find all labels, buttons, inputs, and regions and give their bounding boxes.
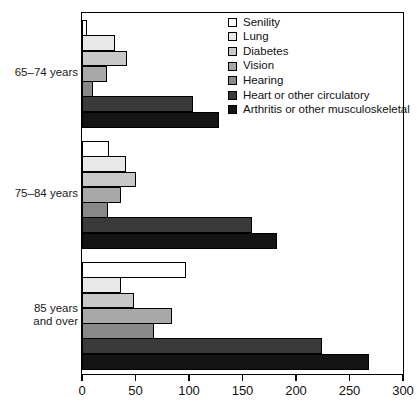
legend-swatch-icon bbox=[228, 91, 237, 100]
legend-label: Senility bbox=[243, 17, 280, 29]
x-axis-tick-label: 100 bbox=[178, 383, 200, 398]
x-axis: 050100150200250300 bbox=[81, 375, 405, 405]
legend-swatch-icon bbox=[228, 47, 237, 56]
x-axis-tick bbox=[349, 375, 351, 381]
bar bbox=[82, 323, 154, 339]
x-axis-tick-label: 150 bbox=[232, 383, 254, 398]
bar bbox=[82, 202, 108, 218]
bar bbox=[82, 187, 121, 203]
legend-label: Lung bbox=[243, 31, 269, 43]
legend-swatch-icon bbox=[228, 62, 237, 71]
legend-item: Diabetes bbox=[228, 44, 410, 59]
bar bbox=[82, 96, 193, 112]
legend-swatch-icon bbox=[228, 105, 237, 114]
chart-legend: SenilityLungDiabetesVisionHearingHeart o… bbox=[228, 15, 410, 117]
legend-label: Hearing bbox=[243, 75, 283, 87]
y-axis-label: 65–74 years bbox=[0, 66, 78, 79]
bar bbox=[82, 156, 126, 172]
bar bbox=[82, 66, 107, 82]
bar bbox=[82, 172, 136, 188]
y-axis-category-labels: 65–74 years75–84 years85 years and over bbox=[0, 12, 78, 375]
x-axis-tick bbox=[135, 375, 137, 381]
bar bbox=[82, 354, 369, 370]
x-axis-tick-label: 50 bbox=[128, 383, 142, 398]
legend-item: Vision bbox=[228, 59, 410, 74]
x-axis-tick-label: 300 bbox=[392, 383, 414, 398]
legend-item: Lung bbox=[228, 30, 410, 45]
x-axis-tick-label: 250 bbox=[339, 383, 361, 398]
y-axis-label: 75–84 years bbox=[0, 187, 78, 200]
legend-item: Arthritis or other musculoskeletal bbox=[228, 103, 410, 118]
legend-item: Senility bbox=[228, 15, 410, 30]
legend-label: Heart or other circulatory bbox=[243, 90, 370, 102]
bar bbox=[82, 51, 127, 67]
bar bbox=[82, 308, 172, 324]
bar bbox=[82, 338, 322, 354]
x-axis-tick bbox=[402, 375, 404, 381]
x-axis-tick bbox=[188, 375, 190, 381]
bar bbox=[82, 112, 219, 128]
legend-swatch-icon bbox=[228, 18, 237, 27]
bar bbox=[82, 293, 134, 309]
bar bbox=[82, 81, 93, 97]
bar bbox=[82, 262, 186, 278]
legend-item: Heart or other circulatory bbox=[228, 88, 410, 103]
y-axis-label: 85 years and over bbox=[0, 302, 78, 328]
x-axis-tick bbox=[295, 375, 297, 381]
x-axis-tick-label: 0 bbox=[78, 383, 85, 398]
legend-label: Arthritis or other musculoskeletal bbox=[243, 104, 410, 116]
legend-item: Hearing bbox=[228, 73, 410, 88]
bar bbox=[82, 233, 277, 249]
x-axis-tick bbox=[242, 375, 244, 381]
x-axis-tick bbox=[81, 375, 83, 381]
legend-swatch-icon bbox=[228, 32, 237, 41]
bar bbox=[82, 141, 109, 157]
bar bbox=[82, 20, 87, 36]
bar bbox=[82, 35, 115, 51]
bar bbox=[82, 217, 252, 233]
bar-chart: 65–74 years75–84 years85 years and over … bbox=[0, 0, 417, 410]
x-axis-tick-label: 200 bbox=[285, 383, 307, 398]
legend-swatch-icon bbox=[228, 76, 237, 85]
legend-label: Diabetes bbox=[243, 46, 288, 58]
legend-label: Vision bbox=[243, 60, 274, 72]
bar bbox=[82, 277, 121, 293]
